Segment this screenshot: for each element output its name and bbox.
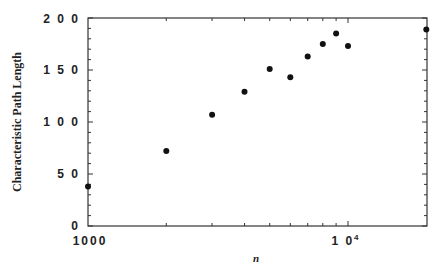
y-tick-150: 1 5 0: [43, 63, 80, 77]
y-tick-200: 2 0 0: [43, 12, 80, 26]
data-point: [345, 43, 351, 49]
data-point: [267, 66, 273, 72]
data-point: [320, 41, 326, 47]
data-point: [85, 184, 91, 190]
y-axis-title: Characteristic Path Length: [10, 52, 24, 192]
data-point: [163, 148, 169, 154]
chart-background: [0, 0, 438, 272]
y-tick-50: 5 0: [57, 167, 80, 181]
data-point: [333, 31, 339, 37]
x-tick-1000: 1000: [73, 234, 108, 248]
data-point: [423, 26, 429, 32]
data-point: [305, 54, 311, 60]
data-point: [287, 74, 293, 80]
y-tick-100: 1 0 0: [43, 115, 80, 129]
data-point: [209, 112, 215, 118]
x-axis-title: n: [253, 252, 259, 264]
data-point: [242, 89, 248, 95]
y-tick-0: 0: [71, 219, 80, 233]
scatter-chart: 0 5 0 1 0 0 1 5 0 2 0 0 1000 1 04 n Char…: [0, 0, 438, 272]
